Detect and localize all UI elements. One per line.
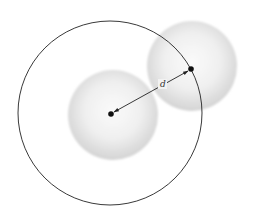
sphere-2 (147, 21, 237, 111)
diagram-canvas: d (0, 0, 255, 221)
center-dot-1 (108, 111, 114, 117)
center-dot-2 (188, 66, 194, 72)
diagram-svg: d (0, 0, 255, 221)
distance-label: d (160, 79, 166, 89)
